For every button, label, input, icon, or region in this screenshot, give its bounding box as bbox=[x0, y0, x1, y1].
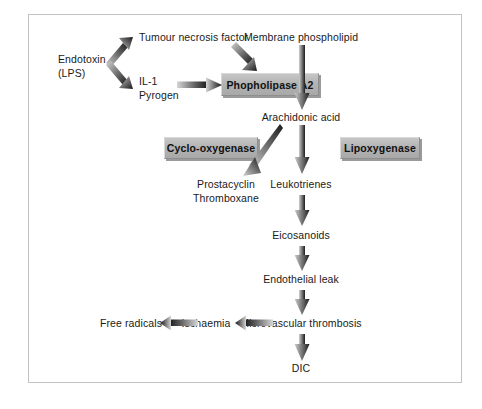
node-eicosanoids: Eicosanoids bbox=[272, 229, 330, 243]
enzyme-box-lipoxygenase-label: Lipoxygenase bbox=[344, 142, 416, 154]
enzyme-box-phospholipase-a2-label: Phopholipase A2 bbox=[226, 79, 313, 91]
arrow-arachidonic-to-leukotrienes bbox=[294, 125, 310, 175]
node-prostacyclin-line1: Prostacyclin bbox=[193, 178, 259, 192]
node-dic: DIC bbox=[292, 362, 310, 376]
enzyme-box-phospholipase-a2[interactable]: Phopholipase A2 bbox=[221, 73, 319, 96]
arrow-endotoxin-to-il1 bbox=[105, 59, 137, 91]
node-ischaemia: Ischaemia bbox=[182, 317, 231, 331]
node-membrane-phospholipid: Membrane phospholipid bbox=[244, 31, 358, 45]
node-endotoxin-line2: (LPS) bbox=[58, 67, 106, 81]
node-tumour-necrosis-factor: Tumour necrosis factor bbox=[139, 31, 248, 45]
node-endotoxin-line1: Endotoxin bbox=[58, 53, 106, 67]
arrow-thrombosis-to-dic bbox=[294, 334, 310, 362]
node-endothelial-leak: Endothelial leak bbox=[263, 273, 339, 287]
enzyme-box-cyclo-oxygenase-label: Cyclo-oxygenase bbox=[167, 142, 256, 154]
node-endotoxin: Endotoxin (LPS) bbox=[58, 53, 106, 80]
node-il1-pyrogen: IL-1 Pyrogen bbox=[139, 75, 179, 102]
arrow-eicosanoids-to-endothelial-leak bbox=[294, 246, 310, 272]
node-il1-line2: Pyrogen bbox=[139, 89, 179, 103]
node-prostacyclin-thromboxane: Prostacyclin Thromboxane bbox=[193, 178, 259, 205]
arrow-leukotrienes-to-eicosanoids bbox=[294, 195, 310, 227]
enzyme-box-lipoxygenase[interactable]: Lipoxygenase bbox=[340, 137, 420, 159]
node-prostacyclin-line2: Thromboxane bbox=[193, 192, 259, 206]
arrow-endothelial-leak-to-thrombosis bbox=[294, 290, 310, 316]
enzyme-box-cyclo-oxygenase[interactable]: Cyclo-oxygenase bbox=[164, 137, 258, 159]
node-il1-line1: IL-1 bbox=[139, 75, 179, 89]
arrow-endotoxin-to-tnf bbox=[105, 37, 137, 69]
node-microvascular-thrombosis: Microvascular thrombosis bbox=[240, 317, 361, 331]
node-arachidonic-acid: Arachidonic acid bbox=[262, 111, 341, 125]
diagram-frame: Endotoxin (LPS) Tumour necrosis factor I… bbox=[28, 14, 462, 383]
node-free-radicals: Free radicals bbox=[100, 317, 162, 331]
arrow-il1-to-phospholipase bbox=[177, 77, 223, 93]
node-leukotrienes: Leukotrienes bbox=[270, 178, 331, 192]
arrow-tnf-to-phospholipase bbox=[229, 43, 261, 75]
